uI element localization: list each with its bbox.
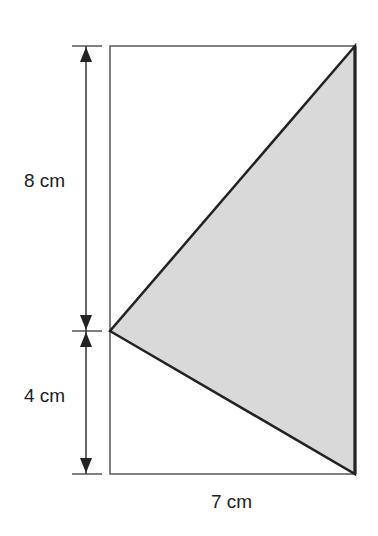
arrow-up-icon [80, 47, 92, 62]
triangle-diagram: 8 cm 4 cm 7 cm [0, 0, 378, 536]
label-lower-height: 4 cm [24, 385, 65, 406]
arrow-down-icon [80, 458, 92, 473]
arrow-up-icon [80, 332, 92, 347]
label-width: 7 cm [211, 491, 252, 512]
label-upper-height: 8 cm [24, 170, 65, 191]
shaded-triangle [110, 46, 355, 474]
arrow-down-icon [80, 315, 92, 330]
